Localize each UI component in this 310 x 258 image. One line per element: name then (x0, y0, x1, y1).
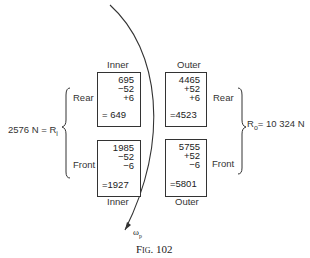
right-total-label: Ro= 10 324 N (247, 118, 305, 131)
left-total-sub: i (56, 130, 58, 137)
inner-rear-row-label: Rear (73, 92, 94, 103)
line-3: −6 (123, 161, 134, 171)
inner-rear-box: 695 −52 +6 = 649 (97, 72, 141, 127)
inner-rear-column-label: Inner (107, 59, 129, 70)
arrowhead-icon (125, 222, 131, 230)
outer-front-row-label: Front (212, 158, 234, 169)
right-total-prefix: R (247, 118, 254, 129)
omega-sub: p (139, 233, 142, 239)
right-total-value: = 10 324 N (258, 118, 305, 129)
left-brace (62, 88, 70, 178)
result: = 649 (102, 109, 126, 120)
inner-front-column-label: Inner (107, 196, 129, 207)
left-total-text: 2576 N = R (8, 124, 56, 135)
line-3: −6 (189, 160, 200, 170)
right-brace (238, 88, 246, 174)
result: =5801 (170, 178, 197, 189)
outer-rear-row-label: Rear (213, 92, 234, 103)
line-3: +6 (189, 93, 200, 103)
outer-rear-box: 4465 +52 +6 =4523 (165, 72, 207, 127)
inner-front-box: 1985 −52 −6 =1927 (97, 140, 141, 197)
figure-caption: Fig. 102 (136, 243, 173, 255)
inner-front-row-label: Front (73, 159, 95, 170)
outer-front-box: 5755 +52 −6 =5801 (165, 139, 207, 197)
result: =4523 (170, 109, 197, 120)
line-3: +6 (123, 93, 134, 103)
outer-rear-column-label: Outer (177, 59, 201, 70)
outer-front-column-label: Outer (175, 196, 199, 207)
omega-label: ωp (133, 227, 142, 239)
result: =1927 (102, 179, 129, 190)
left-total-label: 2576 N = Ri (8, 124, 58, 137)
